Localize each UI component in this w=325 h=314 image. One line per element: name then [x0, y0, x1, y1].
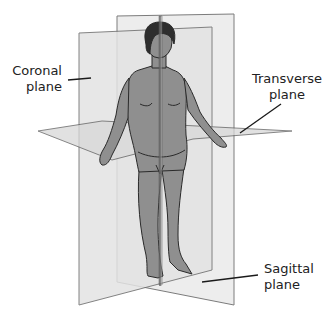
sagittal-label-line2: plane [264, 277, 324, 293]
transverse-label-line1: Transverse [249, 71, 325, 87]
coronal-plane-label: Coronal plane [10, 63, 62, 95]
transverse-plane-label: Transverse plane [249, 71, 325, 103]
sagittal-label-line1: Sagittal [264, 261, 324, 277]
coronal-label-line1: Coronal [10, 63, 62, 79]
coronal-label-line2: plane [10, 79, 62, 95]
sagittal-plane-label: Sagittal plane [264, 261, 324, 293]
transverse-label-line2: plane [249, 87, 325, 103]
transverse-leader-line [240, 104, 281, 133]
